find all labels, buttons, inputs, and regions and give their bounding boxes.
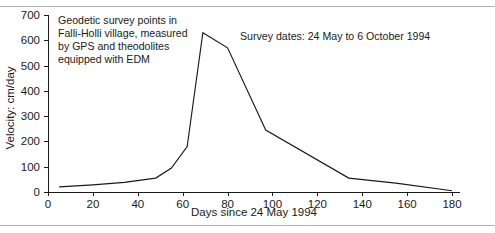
annotation-survey-dates: Survey dates: 24 May to 6 October 1994	[240, 30, 430, 42]
velocity-chart-figure: 0100200300400500600700 02040608010012014…	[0, 0, 495, 233]
annotation-description-line-2: Falli-Holli village, measured	[58, 27, 188, 39]
x-tick-label: 180	[442, 198, 461, 210]
x-tick-label: 140	[353, 198, 372, 210]
x-tick-label: 0	[45, 198, 51, 210]
chart-plot-area: 0100200300400500600700 02040608010012014…	[0, 0, 495, 233]
y-tick-label: 300	[21, 110, 40, 122]
annotation-description: Geodetic survey points in Falli-Holli vi…	[58, 14, 188, 65]
x-axis-title: Days since 24 May 1994	[191, 206, 318, 218]
annotation-description-line-3: by GPS and theodolites	[58, 40, 169, 52]
y-axis-title: Velocity: cm/day	[4, 66, 16, 149]
y-tick-label: 0	[34, 186, 40, 198]
x-tick-label: 160	[398, 198, 417, 210]
y-tick-label: 700	[21, 9, 40, 21]
y-tick-label: 200	[21, 135, 40, 147]
y-axis-ticks: 0100200300400500600700	[21, 9, 48, 198]
x-tick-label: 40	[131, 198, 144, 210]
y-tick-label: 400	[21, 85, 40, 97]
y-tick-label: 100	[21, 161, 40, 173]
y-tick-label: 500	[21, 60, 40, 72]
annotation-description-line-1: Geodetic survey points in	[58, 14, 177, 26]
annotation-description-line-4: equipped with EDM	[58, 53, 150, 65]
y-tick-label: 600	[21, 34, 40, 46]
x-tick-label: 20	[86, 198, 99, 210]
x-tick-label: 60	[176, 198, 189, 210]
